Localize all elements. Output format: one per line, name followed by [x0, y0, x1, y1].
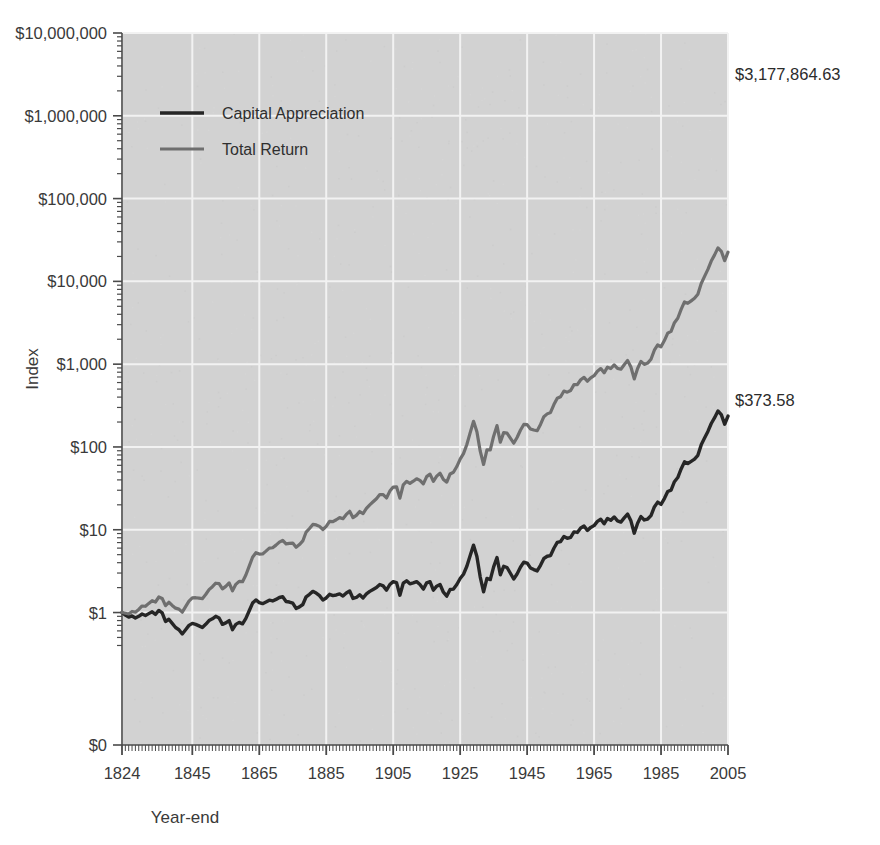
legend-label-total-return: Total Return [222, 141, 308, 158]
x-tick-label: 1824 [104, 764, 141, 782]
total-return-endpoint-label: $3,177,864.63 [735, 65, 841, 83]
y-tick-label: $100 [70, 438, 107, 456]
y-tick-label: $1 [89, 604, 107, 622]
x-tick-label: 1945 [509, 764, 546, 782]
capital-appreciation-endpoint-label: $373.58 [735, 391, 795, 409]
x-tick-label: 1985 [643, 764, 680, 782]
endpoint-annotations: $3,177,864.63$373.58 [735, 65, 841, 408]
y-tick-label: $0 [89, 736, 107, 754]
x-tick-label: 1905 [375, 764, 412, 782]
x-tick-label: 2005 [710, 764, 747, 782]
y-tick-label: $1,000,000 [24, 107, 107, 125]
x-tick-label: 1885 [308, 764, 345, 782]
y-tick-label: $10,000 [47, 272, 107, 290]
x-tick-label: 1925 [442, 764, 479, 782]
x-axis: 1824184518651885190519251945196519852005 [104, 745, 747, 782]
y-axis-title: Index [23, 348, 42, 390]
index-growth-line-chart: $10,000,000$1,000,000$100,000$10,000$1,0… [0, 0, 880, 845]
plot-background [122, 33, 728, 745]
legend-label-capital-appreciation: Capital Appreciation [222, 105, 364, 122]
y-tick-label: $1,000 [57, 355, 107, 373]
chart-figure: $10,000,000$1,000,000$100,000$10,000$1,0… [0, 0, 880, 845]
y-tick-label: $10,000,000 [15, 24, 107, 42]
x-tick-label: 1965 [576, 764, 613, 782]
y-tick-label: $10 [79, 521, 107, 539]
y-tick-label: $100,000 [38, 190, 107, 208]
x-axis-title: Year-end [151, 808, 219, 827]
x-tick-label: 1845 [174, 764, 211, 782]
x-tick-label: 1865 [241, 764, 278, 782]
